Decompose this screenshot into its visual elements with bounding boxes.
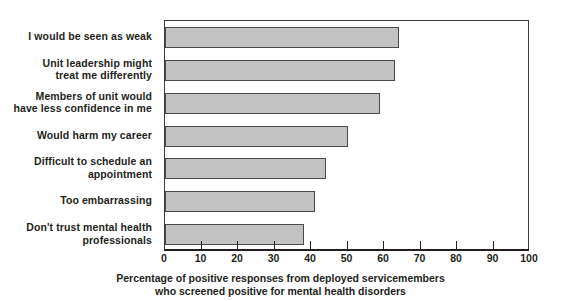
x-tick-label: 80 (450, 252, 462, 264)
x-tick (237, 241, 238, 250)
x-tick-label: 40 (304, 252, 316, 264)
x-tick (347, 241, 348, 250)
bar-series (165, 21, 528, 249)
x-axis-ticks (164, 241, 529, 250)
category-label: Too embarrassing (0, 194, 152, 207)
bar (165, 93, 380, 114)
x-tick-label: 20 (231, 252, 243, 264)
x-tick-label: 70 (414, 252, 426, 264)
x-tick-label: 10 (195, 252, 207, 264)
x-axis-label: Percentage of positive responses from de… (0, 272, 561, 298)
x-tick (201, 241, 202, 250)
x-tick (493, 241, 494, 250)
category-label: Members of unit would have less confiden… (0, 90, 152, 115)
x-tick (383, 241, 384, 250)
x-tick (456, 241, 457, 250)
bar (165, 27, 399, 48)
category-label: Don't trust mental health professionals (0, 221, 152, 246)
category-label: Would harm my career (0, 129, 152, 142)
x-tick-label: 50 (341, 252, 353, 264)
category-label: Difficult to schedule an appointment (0, 155, 152, 180)
x-tick (420, 241, 421, 250)
x-tick-label: 30 (268, 252, 280, 264)
x-tick (310, 241, 311, 250)
x-axis-label-line2: who screened positive for mental health … (0, 285, 561, 298)
category-label: Unit leadership might treat me different… (0, 57, 152, 82)
x-tick-label: 60 (377, 252, 389, 264)
bar-chart-figure: I would be seen as weakUnit leadership m… (0, 0, 561, 301)
category-label: I would be seen as weak (0, 30, 152, 43)
plot-area (164, 20, 529, 250)
bar (165, 158, 326, 179)
x-tick-label: 90 (487, 252, 499, 264)
x-axis-label-line1: Percentage of positive responses from de… (0, 272, 561, 285)
bar (165, 191, 315, 212)
x-tick (274, 241, 275, 250)
bar (165, 126, 348, 147)
x-tick-label: 100 (520, 252, 538, 264)
bar (165, 60, 395, 81)
x-tick-label: 0 (161, 252, 167, 264)
category-labels: I would be seen as weakUnit leadership m… (0, 20, 158, 250)
x-axis-tick-labels: 0102030405060708090100 (164, 252, 529, 268)
